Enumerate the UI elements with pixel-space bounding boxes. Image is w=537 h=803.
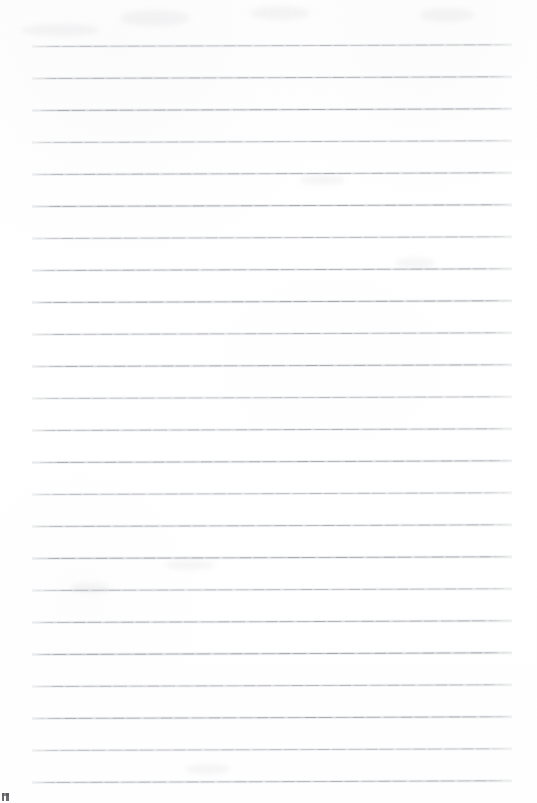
corner-speck-artifact [2, 793, 9, 801]
scanned-page [0, 0, 537, 803]
handwritten-content [32, 46, 512, 782]
